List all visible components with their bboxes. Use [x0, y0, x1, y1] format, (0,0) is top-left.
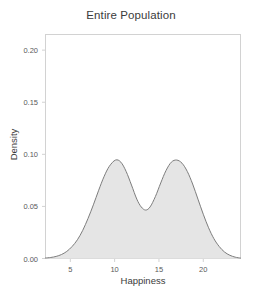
x-axis-title: Happiness [45, 275, 241, 286]
x-tick-label: 5 [68, 265, 72, 274]
density-plot-figure: Entire Population 0.000.050.100.150.20 5… [0, 0, 262, 297]
y-tick-label: 0.00 [8, 254, 38, 263]
y-axis-title: Density [8, 115, 19, 175]
x-tick-label: 20 [199, 265, 207, 274]
x-tick-label: 15 [155, 265, 163, 274]
y-tick-label: 0.05 [8, 202, 38, 211]
y-tick-label: 0.15 [8, 98, 38, 107]
y-axis-tick-marks [42, 50, 46, 258]
plot-canvas [0, 0, 262, 297]
x-tick-label: 10 [110, 265, 118, 274]
y-tick-label: 0.20 [8, 46, 38, 55]
x-axis-tick-marks [70, 259, 203, 263]
